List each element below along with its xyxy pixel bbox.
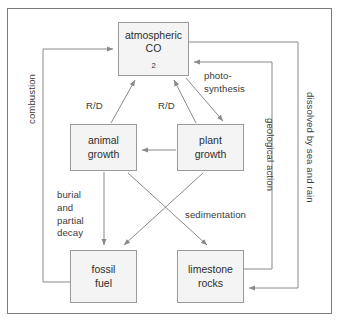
node-atmospheric-co2[interactable]: atmospheric CO2 <box>118 22 189 76</box>
edge-label-geological-action: geological action <box>265 118 276 191</box>
node-limestone-rocks-line1: limestone <box>188 263 233 276</box>
edge-label-rd-left: R/D <box>86 100 103 113</box>
node-fossil-fuel-line2: fuel <box>92 277 116 290</box>
co2-subscript: 2 <box>151 61 155 70</box>
node-limestone-rocks-line2: rocks <box>188 277 233 290</box>
node-animal-growth-line2: growth <box>88 148 120 161</box>
node-fossil-fuel-line1: fossil <box>92 263 116 276</box>
edge-label-burial: burial and partial decay <box>57 189 84 240</box>
edge-label-rd-right: R/D <box>158 100 175 113</box>
node-atmospheric-co2-line1: atmospheric <box>125 29 182 42</box>
edge-animal-to-atmospheric <box>111 80 135 123</box>
node-limestone-rocks[interactable]: limestone rocks <box>177 250 244 303</box>
node-atmospheric-co2-line2: CO2 <box>125 42 182 69</box>
node-plant-growth-line1: plant <box>195 134 227 147</box>
edge-label-dissolved: dissolved by sea and rain <box>305 92 316 203</box>
edge-label-photosynthesis: photo- synthesis <box>204 70 245 96</box>
carbon-cycle-diagram: atmospheric CO2 animal growth plant grow… <box>0 0 340 322</box>
node-plant-growth[interactable]: plant growth <box>177 124 244 171</box>
node-animal-growth-line1: animal <box>88 134 120 147</box>
edge-label-sedimentation: sedimentation <box>185 209 246 222</box>
node-animal-growth[interactable]: animal growth <box>70 124 137 171</box>
node-plant-growth-line2: growth <box>195 148 227 161</box>
edge-label-combustion: combustion <box>26 74 37 124</box>
node-fossil-fuel[interactable]: fossil fuel <box>70 250 137 303</box>
